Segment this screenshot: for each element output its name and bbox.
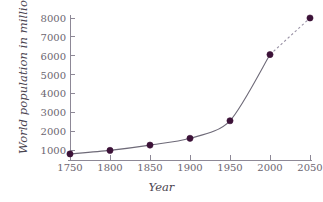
data-markers bbox=[67, 15, 313, 157]
population-line-chart: World population in millions 8000 7000 6… bbox=[0, 0, 323, 202]
plot-area bbox=[0, 0, 323, 202]
data-line bbox=[70, 18, 310, 154]
